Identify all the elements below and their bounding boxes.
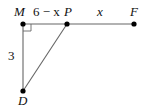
point-p (64, 21, 69, 26)
point-f (131, 21, 136, 26)
label-m: M (13, 4, 26, 19)
label-mp-length: 6 − x (33, 4, 60, 19)
label-f: F (129, 4, 139, 19)
segment-pd (23, 24, 67, 91)
label-p: P (63, 4, 72, 19)
label-d: D (17, 93, 28, 106)
geometry-diagram: M P F D 6 − x x 3 (0, 0, 142, 106)
point-m (20, 21, 25, 26)
label-md-length: 3 (8, 48, 15, 63)
label-pf-length: x (96, 4, 103, 19)
